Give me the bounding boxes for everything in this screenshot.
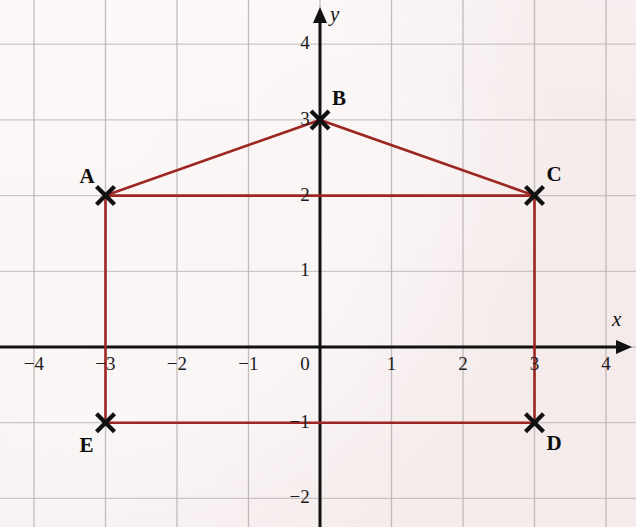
- coordinate-plot: [0, 0, 636, 527]
- x-tick-label: 1: [370, 353, 414, 375]
- origin-label: 0: [282, 353, 310, 375]
- x-tick-label: 2: [441, 353, 485, 375]
- x-tick-label: 3: [513, 353, 557, 375]
- y-tick-label: 3: [274, 108, 310, 130]
- point-label-b: B: [332, 86, 346, 111]
- gridlines: [0, 0, 636, 527]
- axes: [0, 7, 632, 527]
- x-axis-name: x: [612, 307, 621, 332]
- y-axis-name: y: [330, 2, 339, 27]
- x-tick-label: −1: [227, 353, 271, 375]
- figure-canvas: −4−3−2−1123443210−1−2 ABCDE x y: [0, 0, 636, 527]
- point-label-c: C: [547, 162, 562, 187]
- point-label-d: D: [547, 431, 562, 456]
- point-label-a: A: [80, 164, 95, 189]
- y-tick-label: 4: [274, 32, 310, 54]
- x-tick-label: −3: [84, 353, 128, 375]
- y-tick-label: −1: [274, 411, 310, 433]
- y-tick-label: 2: [274, 184, 310, 206]
- x-tick-label: 4: [584, 353, 628, 375]
- point-label-e: E: [80, 433, 94, 458]
- y-tick-label: 1: [274, 259, 310, 281]
- y-tick-label: −2: [274, 486, 310, 508]
- x-tick-label: −2: [155, 353, 199, 375]
- x-tick-label: −4: [12, 353, 56, 375]
